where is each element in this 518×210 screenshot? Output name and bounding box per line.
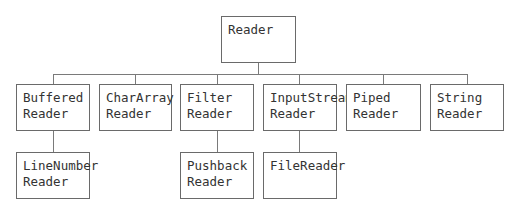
- node-reader: Reader: [221, 16, 296, 63]
- node-linenumber-reader: LineNumber Reader: [16, 152, 90, 199]
- connector-filter: [217, 74, 218, 84]
- connector-string: [467, 74, 468, 84]
- node-pushback-reader: Pushback Reader: [180, 152, 254, 199]
- connector-chararray: [135, 74, 136, 84]
- node-filereader: FileReader: [263, 152, 337, 199]
- node-chararray-reader: CharArray Reader: [99, 84, 172, 131]
- node-inputstream-reader: InputStream Reader: [263, 84, 337, 131]
- connector-inputstream: [299, 74, 300, 84]
- connector-buffered-linenumber: [53, 130, 54, 152]
- connector-horizontal-bus: [53, 74, 468, 75]
- node-piped-reader: Piped Reader: [346, 84, 421, 131]
- connector-inputstream-filereader: [299, 130, 300, 152]
- connector-filter-pushback: [217, 130, 218, 152]
- connector-root-down: [258, 62, 259, 74]
- node-filter-reader: Filter Reader: [180, 84, 254, 131]
- connector-buffered: [53, 74, 54, 84]
- node-string-reader: String Reader: [430, 84, 504, 131]
- connector-piped: [383, 74, 384, 84]
- node-buffered-reader: Buffered Reader: [16, 84, 90, 131]
